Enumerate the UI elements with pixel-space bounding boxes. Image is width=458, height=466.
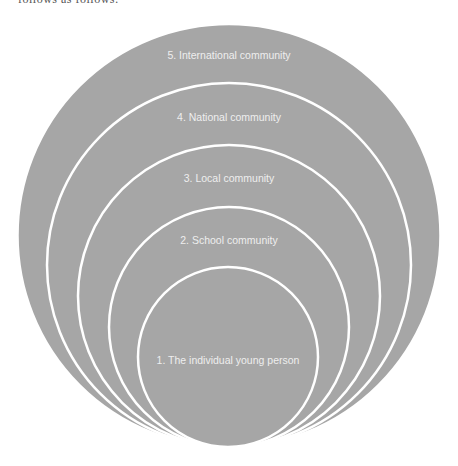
nested-community-circles-diagram: 5. International community 4. National c… bbox=[0, 0, 458, 466]
label-school-community: 2. School community bbox=[180, 234, 278, 246]
label-local-community: 3. Local community bbox=[184, 172, 275, 184]
label-international-community: 5. International community bbox=[167, 49, 291, 61]
label-individual-young-person: 1. The individual young person bbox=[157, 354, 300, 366]
label-national-community: 4. National community bbox=[177, 111, 282, 123]
